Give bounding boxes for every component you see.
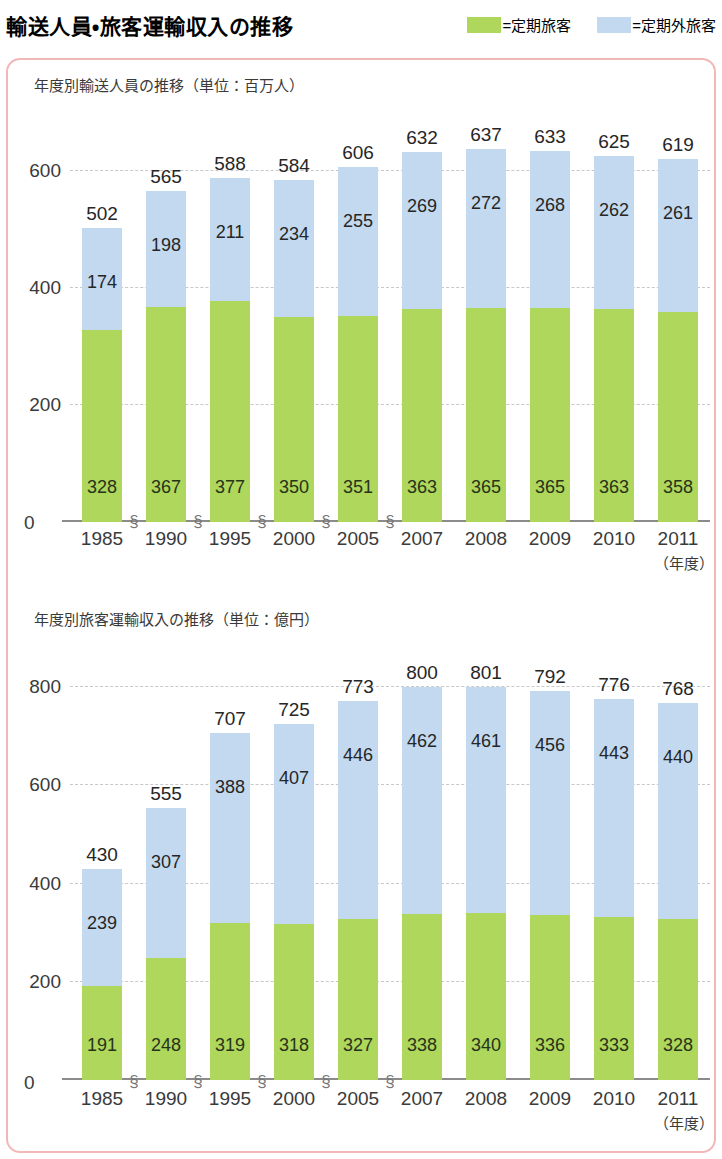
bar-segment-commuter[interactable]: 338 xyxy=(402,914,442,1080)
stacked-bar[interactable]: 606255351 xyxy=(338,167,378,522)
bar-segment-value: 239 xyxy=(87,913,117,934)
bar-segment-value: 327 xyxy=(343,1035,373,1056)
bar-slot: 792456336 xyxy=(518,648,582,1080)
bar-segment-non-commuter[interactable]: 456 xyxy=(530,691,570,915)
bar-segment-value: 350 xyxy=(279,477,309,498)
bar-segment-commuter[interactable]: 365 xyxy=(530,308,570,522)
bar-segment-commuter[interactable]: 319 xyxy=(210,923,250,1080)
bar-segment-commuter[interactable]: 327 xyxy=(338,919,378,1080)
stacked-bar[interactable]: 725407318 xyxy=(274,724,314,1080)
bar-total-label: 633 xyxy=(534,126,566,148)
bar-segment-commuter[interactable]: 328 xyxy=(658,919,698,1080)
bar-segment-non-commuter[interactable]: 174 xyxy=(82,228,122,330)
bar-segment-non-commuter[interactable]: 234 xyxy=(274,180,314,317)
bar-segment-value: 365 xyxy=(535,477,565,498)
y-axis-tick-label: 400 xyxy=(29,277,61,299)
bar-total-label: 625 xyxy=(598,131,630,153)
stacked-bar[interactable]: 588211377 xyxy=(210,178,250,522)
xunit-revenue: （年度） xyxy=(654,1112,714,1133)
bar-segment-non-commuter[interactable]: 239 xyxy=(82,869,122,986)
bar-segment-value: 318 xyxy=(279,1035,309,1056)
stacked-bar[interactable]: 619261358 xyxy=(658,159,698,522)
x-axis-tick-label: 2010 xyxy=(582,1088,646,1110)
bar-segment-value: 461 xyxy=(471,731,501,752)
stacked-bar[interactable]: 633268365 xyxy=(530,151,570,522)
bar-segment-commuter[interactable]: 191 xyxy=(82,986,122,1080)
bar-segment-non-commuter[interactable]: 211 xyxy=(210,178,250,302)
bar-segment-non-commuter[interactable]: 461 xyxy=(466,687,506,913)
bar-segment-value: 440 xyxy=(663,747,693,768)
bar-total-label: 637 xyxy=(470,124,502,146)
bar-segment-value: 248 xyxy=(151,1035,181,1056)
bar-segment-value: 234 xyxy=(279,224,309,245)
stacked-bar[interactable]: 584234350 xyxy=(274,180,314,522)
bar-slot: 773446327 xyxy=(326,648,390,1080)
chart-page: 輸送人員・旅客運輸収入の推移 =定期旅客=定期外旅客 年度別輸送人員の推移（単位… xyxy=(0,0,722,1159)
bar-segment-commuter[interactable]: 363 xyxy=(402,309,442,522)
bar-slot: 555307248 xyxy=(134,648,198,1080)
stacked-bar[interactable]: 800462338 xyxy=(402,687,442,1080)
legend-label-commuter-pass: =定期旅客 xyxy=(502,14,571,35)
bar-segment-non-commuter[interactable]: 272 xyxy=(466,149,506,308)
bar-slot: 565198367 xyxy=(134,112,198,522)
bar-segment-commuter[interactable]: 328 xyxy=(82,330,122,522)
bar-segment-non-commuter[interactable]: 261 xyxy=(658,159,698,312)
bar-segment-commuter[interactable]: 336 xyxy=(530,915,570,1080)
bar-segment-commuter[interactable]: 351 xyxy=(338,316,378,522)
bar-segment-value: 462 xyxy=(407,731,437,752)
stacked-bar[interactable]: 625262363 xyxy=(594,156,634,522)
x-axis-tick-label: 2007 xyxy=(390,1088,454,1110)
bar-segment-value: 338 xyxy=(407,1035,437,1056)
stacked-bar[interactable]: 768440328 xyxy=(658,703,698,1080)
bar-segment-commuter[interactable]: 377 xyxy=(210,301,250,522)
bar-segment-value: 363 xyxy=(599,477,629,498)
x-axis-tick-label: 2011 xyxy=(646,1088,710,1110)
xlabels-revenue: 1985199019952000200520072008200920102011 xyxy=(70,1088,710,1110)
bar-segment-non-commuter[interactable]: 262 xyxy=(594,156,634,309)
bar-segment-commuter[interactable]: 318 xyxy=(274,924,314,1080)
bar-segment-non-commuter[interactable]: 307 xyxy=(146,808,186,959)
bar-segment-value: 407 xyxy=(279,768,309,789)
bar-segment-commuter[interactable]: 365 xyxy=(466,308,506,522)
stacked-bar[interactable]: 637272365 xyxy=(466,149,506,522)
bar-segment-non-commuter[interactable]: 407 xyxy=(274,724,314,924)
legend-swatch-non-commuter xyxy=(597,17,631,33)
stacked-bar[interactable]: 776443333 xyxy=(594,699,634,1080)
stacked-bar[interactable]: 801461340 xyxy=(466,687,506,1080)
stacked-bar[interactable]: 773446327 xyxy=(338,701,378,1080)
bar-segment-non-commuter[interactable]: 462 xyxy=(402,687,442,914)
y-axis-tick-label: 200 xyxy=(29,394,61,416)
bar-segment-non-commuter[interactable]: 446 xyxy=(338,701,378,920)
stacked-bar[interactable]: 430239191 xyxy=(82,869,122,1080)
bar-segment-commuter[interactable]: 248 xyxy=(146,958,186,1080)
bar-series: 4302391915553072487073883197254073187734… xyxy=(70,648,710,1080)
x-axis-tick-label: 2000 xyxy=(262,528,326,550)
stacked-bar[interactable]: 555307248 xyxy=(146,808,186,1080)
bar-segment-non-commuter[interactable]: 198 xyxy=(146,191,186,307)
stacked-bar[interactable]: 792456336 xyxy=(530,691,570,1080)
bar-segment-commuter[interactable]: 333 xyxy=(594,917,634,1080)
bar-segment-non-commuter[interactable]: 440 xyxy=(658,703,698,919)
bar-segment-non-commuter[interactable]: 268 xyxy=(530,151,570,308)
xaxis-revenue: 0 §§§§§ 19851990199520002005200720082009… xyxy=(70,1086,710,1132)
bar-total-label: 707 xyxy=(214,708,246,730)
bar-segment-non-commuter[interactable]: 269 xyxy=(402,152,442,310)
bar-segment-value: 377 xyxy=(215,477,245,498)
x-axis-tick-label: 2011 xyxy=(646,528,710,550)
stacked-bar[interactable]: 632269363 xyxy=(402,152,442,522)
bar-segment-commuter[interactable]: 358 xyxy=(658,312,698,522)
stacked-bar[interactable]: 502174328 xyxy=(82,228,122,522)
bar-segment-commuter[interactable]: 363 xyxy=(594,309,634,522)
bar-slot: 632269363 xyxy=(390,112,454,522)
bar-segment-non-commuter[interactable]: 388 xyxy=(210,733,250,923)
bar-segment-commuter[interactable]: 350 xyxy=(274,317,314,522)
bar-slot: 430239191 xyxy=(70,648,134,1080)
bar-segment-commuter[interactable]: 367 xyxy=(146,307,186,522)
stacked-bar[interactable]: 707388319 xyxy=(210,733,250,1080)
bar-segment-non-commuter[interactable]: 255 xyxy=(338,167,378,316)
bar-segment-non-commuter[interactable]: 443 xyxy=(594,699,634,916)
stacked-bar[interactable]: 565198367 xyxy=(146,191,186,522)
panel-revenue: 年度別旅客運輸収入の推移（単位：億円） 20040060080043023919… xyxy=(8,608,714,1148)
bar-segment-commuter[interactable]: 340 xyxy=(466,913,506,1080)
legend-label-non-commuter: =定期外旅客 xyxy=(632,14,716,35)
